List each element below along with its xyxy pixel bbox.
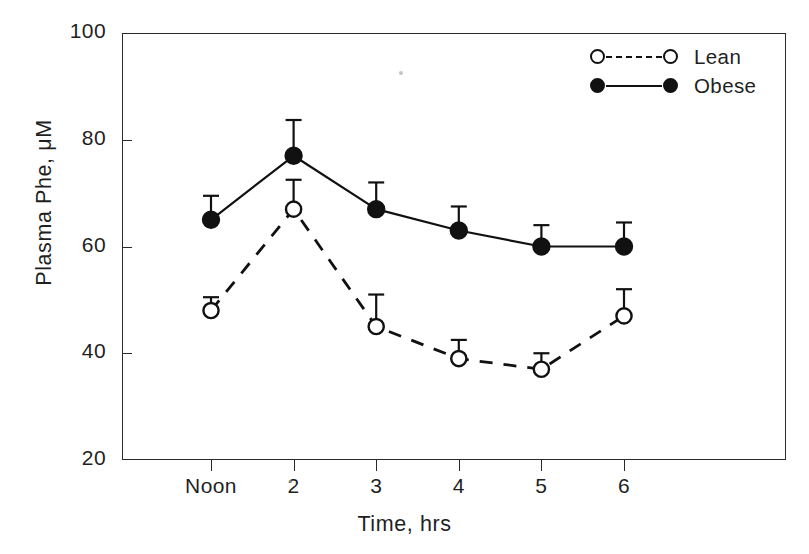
- x-axis-tick: [459, 460, 460, 471]
- y-axis-tick-label: 80: [42, 126, 106, 150]
- y-axis-tick-label: 60: [42, 233, 106, 257]
- y-axis-tick: [122, 247, 132, 248]
- x-axis-title: Time, hrs: [0, 512, 809, 537]
- filled-circle-icon: [663, 78, 678, 93]
- scan-speck: [399, 71, 403, 75]
- legend-item-lean: Lean: [588, 42, 756, 71]
- legend: Lean Obese: [588, 42, 756, 100]
- x-axis-tick: [211, 460, 212, 471]
- figure-plasma-phe-vs-time: Plasma Phe, μM 20406080100 Noon23456 Tim…: [0, 0, 809, 554]
- legend-item-obese: Obese: [588, 71, 756, 100]
- y-axis-tick-label: 40: [42, 339, 106, 363]
- open-circle-icon: [590, 49, 605, 64]
- y-axis-tick: [122, 353, 132, 354]
- x-axis-tick: [376, 460, 377, 471]
- solid-line-icon: [606, 85, 662, 87]
- legend-label-obese: Obese: [694, 74, 756, 98]
- legend-key-lean: [588, 45, 680, 69]
- x-axis-tick: [624, 460, 625, 471]
- legend-label-lean: Lean: [694, 45, 741, 69]
- filled-circle-icon: [590, 78, 605, 93]
- y-axis-title: Plasma Phe, μM: [32, 73, 57, 333]
- y-axis-tick-label: 100: [42, 19, 106, 43]
- x-axis-tick: [541, 460, 542, 471]
- y-axis-tick: [122, 140, 132, 141]
- scan-speck: [289, 480, 292, 483]
- open-circle-icon: [663, 49, 678, 64]
- x-axis-tick-label: 6: [564, 474, 684, 498]
- legend-key-obese: [588, 74, 680, 98]
- y-axis-tick-label: 20: [42, 446, 106, 470]
- dashed-line-icon: [606, 56, 662, 58]
- x-axis-tick: [294, 460, 295, 471]
